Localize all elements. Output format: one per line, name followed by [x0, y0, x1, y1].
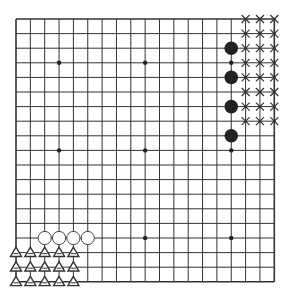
- black-stone[interactable]: [224, 129, 238, 143]
- black-stone[interactable]: [224, 100, 238, 114]
- triangle-mark-icon: [11, 247, 22, 256]
- star-point: [229, 61, 233, 65]
- white-stone[interactable]: [81, 231, 94, 244]
- triangle-mark-icon: [25, 276, 36, 285]
- triangle-mark-icon: [11, 262, 22, 271]
- star-point: [143, 148, 147, 152]
- black-stone[interactable]: [224, 41, 238, 55]
- white-stone[interactable]: [52, 231, 65, 244]
- triangle-mark-icon: [68, 276, 79, 285]
- triangle-mark-icon: [39, 276, 50, 285]
- go-board[interactable]: [0, 0, 292, 306]
- triangle-mark-icon: [25, 262, 36, 271]
- triangle-mark-icon: [39, 262, 50, 271]
- triangle-mark-icon: [68, 262, 79, 271]
- black-stone[interactable]: [224, 71, 238, 85]
- triangle-mark-icon: [39, 247, 50, 256]
- triangle-mark-icon: [68, 247, 79, 256]
- star-point: [143, 61, 147, 65]
- star-point: [57, 148, 61, 152]
- triangle-mark-icon: [11, 276, 22, 285]
- triangle-mark-icon: [25, 247, 36, 256]
- star-point: [229, 148, 233, 152]
- triangle-mark-icon: [54, 262, 65, 271]
- white-stone[interactable]: [67, 231, 80, 244]
- star-point: [229, 236, 233, 240]
- triangle-mark-icon: [54, 276, 65, 285]
- triangle-mark-icon: [54, 247, 65, 256]
- star-point: [57, 61, 61, 65]
- white-stone[interactable]: [38, 231, 51, 244]
- star-point: [143, 236, 147, 240]
